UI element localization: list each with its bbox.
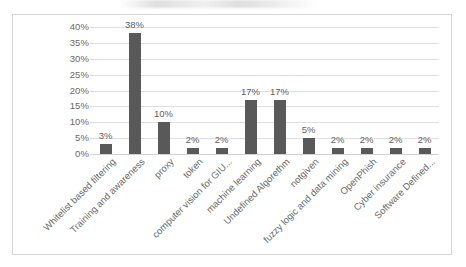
- bar-slot: [149, 27, 178, 154]
- bar-value-label: 2%: [360, 135, 374, 145]
- bar-slot: [120, 27, 149, 154]
- bar-value-label: 38%: [125, 20, 144, 30]
- y-tick-mark: [90, 138, 94, 139]
- bar-value-label: 2%: [215, 135, 229, 145]
- bar[interactable]: [419, 148, 431, 154]
- y-tick-label: 20%: [70, 86, 89, 96]
- y-tick-mark: [90, 59, 94, 60]
- bar[interactable]: [245, 100, 257, 154]
- bar-value-label: 2%: [418, 135, 432, 145]
- y-tick-mark: [90, 154, 94, 155]
- y-tick-label: 35%: [70, 38, 89, 48]
- bar-value-label: 17%: [270, 87, 289, 97]
- bar[interactable]: [129, 33, 141, 154]
- plot-area: 3%38%10%2%2%17%17%5%2%2%2%2%: [91, 27, 439, 154]
- y-tick-mark: [90, 75, 94, 76]
- y-tick-mark: [90, 91, 94, 92]
- bar[interactable]: [216, 148, 228, 154]
- scan-artifact: [120, 0, 320, 8]
- y-tick-mark: [90, 122, 94, 123]
- x-tick-label: token: [180, 156, 204, 180]
- y-axis: 40%35%30%25%20%15%10%5%0%: [53, 15, 89, 166]
- bar[interactable]: [100, 144, 112, 154]
- y-tick-mark: [90, 106, 94, 107]
- bar[interactable]: [158, 122, 170, 154]
- y-tick-mark: [90, 27, 94, 28]
- bar-value-label: 2%: [186, 135, 200, 145]
- bar-value-label: 10%: [154, 109, 173, 119]
- bar-value-label: 17%: [241, 87, 260, 97]
- y-tick-label: 10%: [70, 117, 89, 127]
- bar-value-label: 3%: [99, 131, 113, 141]
- y-tick-label: 40%: [70, 22, 89, 32]
- bar[interactable]: [332, 148, 344, 154]
- y-tick-label: 30%: [70, 54, 89, 64]
- y-tick-mark: [90, 43, 94, 44]
- bar-value-label: 5%: [302, 125, 316, 135]
- bar[interactable]: [390, 148, 402, 154]
- bar[interactable]: [187, 148, 199, 154]
- y-tick-label: 0%: [75, 149, 89, 159]
- chart-container: 40%35%30%25%20%15%10%5%0% 3%38%10%2%2%17…: [12, 14, 452, 255]
- y-tick-label: 25%: [70, 70, 89, 80]
- bar-value-label: 2%: [331, 135, 345, 145]
- bar[interactable]: [274, 100, 286, 154]
- x-axis: Whitelist based filteringTraining and aw…: [91, 156, 439, 256]
- bar-value-label: 2%: [389, 135, 403, 145]
- x-tick-label: proxy: [151, 156, 175, 180]
- gridline-0: [91, 154, 439, 155]
- bar[interactable]: [303, 138, 315, 154]
- y-tick-label: 5%: [75, 133, 89, 143]
- bar[interactable]: [361, 148, 373, 154]
- y-tick-label: 15%: [70, 101, 89, 111]
